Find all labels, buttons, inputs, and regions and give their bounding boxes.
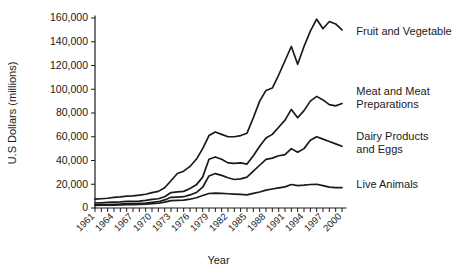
x-tick-label: 1985 xyxy=(226,211,249,234)
series-label-live-animals: Live Animals xyxy=(356,178,418,190)
y-tick-label: 20,000 xyxy=(56,178,88,190)
y-axis-title: U.S Dollars (millions) xyxy=(6,62,18,165)
y-tick-label: 40,000 xyxy=(56,154,88,166)
y-tick-label: 60,000 xyxy=(56,130,88,142)
y-tick-label: 100,000 xyxy=(50,83,88,95)
series-line-dairy-products-and-eggs xyxy=(95,137,342,205)
x-tick-label: 1976 xyxy=(169,211,192,234)
x-tick-label: 1970 xyxy=(131,211,154,234)
x-tick-label: 1964 xyxy=(93,211,116,234)
x-tick-label: 1991 xyxy=(264,211,287,234)
series-label-meat-and-meat-preparations: Meat and Meat xyxy=(356,85,429,97)
x-tick-label: 1982 xyxy=(207,211,230,234)
x-tick-label: 1967 xyxy=(112,211,135,234)
x-tick-label: 2000 xyxy=(321,211,344,234)
x-tick-label: 1973 xyxy=(150,211,173,234)
y-tick-label: 80,000 xyxy=(56,106,88,118)
series-line-meat-and-meat-preparations xyxy=(95,96,342,203)
x-tick-label: 1994 xyxy=(283,211,306,234)
chart-container: 020,00040,00060,00080,000100,000120,0001… xyxy=(0,0,466,272)
x-tick-label: 1961 xyxy=(74,211,97,234)
y-tick-label: 120,000 xyxy=(50,59,88,71)
series-label-dairy-products-and-eggs: and Eggs xyxy=(356,143,403,155)
x-tick-label: 1988 xyxy=(245,211,268,234)
y-tick-label: 160,000 xyxy=(50,11,88,23)
x-tick-label: 1979 xyxy=(188,211,211,234)
series-label-fruit-and-vegetable: Fruit and Vegetable xyxy=(356,25,451,37)
x-tick-label: 1997 xyxy=(302,211,325,234)
series-line-live-animals xyxy=(95,184,342,205)
series-label-meat-and-meat-preparations: Preparations xyxy=(356,98,419,110)
series-label-dairy-products-and-eggs: Dairy Products xyxy=(356,130,429,142)
line-chart-svg: 020,00040,00060,00080,000100,000120,0001… xyxy=(0,0,466,272)
y-tick-label: 140,000 xyxy=(50,35,88,47)
x-axis-title: Year xyxy=(207,254,230,266)
